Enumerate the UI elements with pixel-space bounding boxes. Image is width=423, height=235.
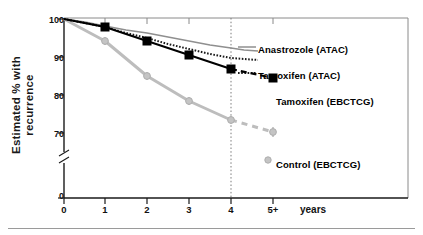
series-line-tamoxifen-ebctcg-dashed xyxy=(231,69,273,78)
plot-svg xyxy=(0,0,423,235)
legend-marker-control-ebctcg xyxy=(265,157,271,163)
series-line-control-ebctcg-dashed xyxy=(231,120,273,132)
series-line-control-ebctcg xyxy=(64,19,231,120)
page-bottom-rule xyxy=(8,228,415,229)
chart-figure: Estimated % with recurrence 100 90 80 70… xyxy=(0,0,423,235)
